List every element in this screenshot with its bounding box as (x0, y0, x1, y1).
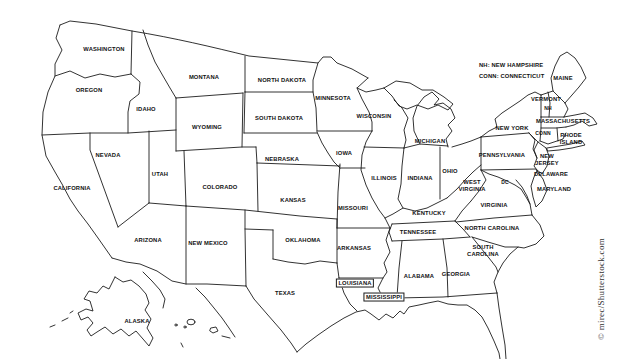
state-label-north-dakota: NORTH DAKOTA (258, 77, 306, 84)
legend-nh-abbreviation: NH: NEW HAMPSHIRE (479, 62, 543, 68)
state-label-wyoming: WYOMING (192, 124, 222, 131)
state-label-arizona: ARIZONA (134, 237, 161, 244)
us-states-map: WASHINGTONOREGONIDAHOMONTANAWYOMINGNORTH… (0, 0, 634, 359)
state-label-maine: MAINE (553, 75, 572, 82)
state-label-ohio: OHIO (442, 168, 457, 175)
state-label-conn: CONN (535, 130, 550, 136)
state-label-oklahoma: OKLAHOMA (285, 237, 320, 244)
state-label-south-dakota: SOUTH DAKOTA (255, 115, 303, 122)
state-label-wisconsin: WISCONSIN (357, 113, 392, 120)
state-label-mississippi: MISSISSIPPI (363, 293, 404, 302)
state-label-maryland: MARYLAND (537, 186, 571, 193)
state-label-indiana: INDIANA (407, 175, 432, 182)
state-label-south-carolina: SOUTHCAROLINA (467, 244, 499, 258)
state-label-pennsylvania: PENNSYLVANIA (479, 152, 525, 159)
state-label-tennessee: TENNESSEE (400, 229, 436, 236)
shutterstock-watermark: © mirec/Shutterstock.com (596, 238, 606, 340)
state-label-georgia: GEORGIA (442, 271, 470, 278)
state-label-nebraska: NEBRASKA (265, 156, 299, 163)
state-label-iowa: IOWA (336, 150, 352, 157)
state-label-new-jersey: NEWJERSEY (535, 153, 559, 167)
state-label-north-carolina: NORTH CAROLINA (465, 225, 520, 232)
state-label-missouri: MISSOURI (338, 205, 368, 212)
state-label-montana: MONTANA (189, 74, 219, 81)
state-label-new-mexico: NEW MEXICO (188, 240, 228, 247)
state-label-oregon: OREGON (76, 87, 103, 94)
state-label-texas: TEXAS (275, 290, 295, 297)
state-label-illinois: ILLINOIS (371, 175, 397, 182)
state-label-virginia: VIRGINIA (481, 202, 508, 209)
state-label-vermont: VERMONT (531, 96, 561, 103)
state-label-washington: WASHINGTON (83, 46, 124, 53)
state-label-nh: NH (544, 105, 552, 111)
state-label-louisiana: LOUISIANA (336, 279, 374, 288)
state-label-delaware: DELAWARE (534, 171, 568, 178)
state-labels-layer: WASHINGTONOREGONIDAHOMONTANAWYOMINGNORTH… (0, 0, 634, 359)
state-label-colorado: COLORADO (202, 184, 237, 191)
state-label-alabama: ALABAMA (404, 273, 434, 280)
legend-conn-abbreviation: CONN: CONNECTICUT (479, 73, 544, 79)
state-label-minnesota: MINNESOTA (315, 95, 351, 102)
state-label-michigan: MICHIGAN (415, 138, 446, 145)
state-label-rhode-island: RHODEISLAND (560, 132, 582, 146)
state-label-kansas: KANSAS (280, 197, 305, 204)
state-label-massachusetts: MASSACHUSETTS (536, 118, 590, 125)
state-label-arkansas: ARKANSAS (337, 245, 371, 252)
state-label-california: CALIFORNIA (53, 185, 90, 192)
state-label-dc: DC (501, 179, 509, 185)
state-label-alaska: ALASKA (124, 318, 149, 325)
state-label-utah: UTAH (152, 171, 168, 178)
state-label-kentucky: KENTUCKY (412, 210, 445, 217)
state-label-new-york: NEW YORK (496, 125, 529, 132)
state-label-nevada: NEVADA (96, 152, 121, 159)
state-label-idaho: IDAHO (136, 106, 155, 113)
state-label-west-virginia: WESTVIRGINIA (459, 179, 486, 193)
